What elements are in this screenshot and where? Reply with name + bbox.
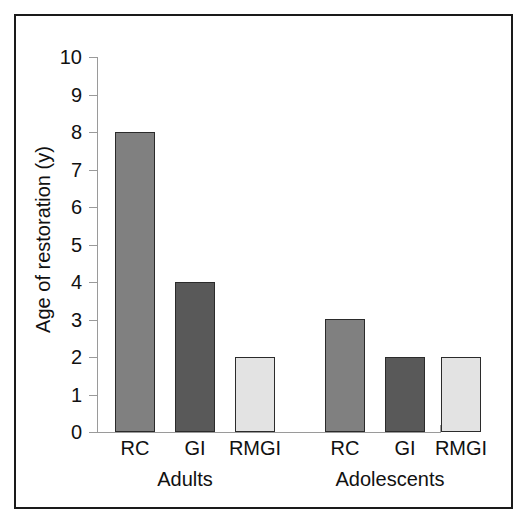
y-axis-tick-mark	[89, 95, 97, 96]
x-axis-line	[97, 432, 441, 433]
x-axis-category-label: RMGI	[426, 437, 496, 460]
y-axis-tick-mark	[89, 282, 97, 283]
y-axis-tick-label-text: 9	[38, 85, 82, 105]
y-axis-tick-mark	[89, 395, 97, 396]
y-axis-tick-mark	[89, 320, 97, 321]
y-axis-tick-label-text: 1	[38, 385, 82, 405]
y-axis-tick-label: 0	[38, 422, 82, 442]
bar-adults-gi	[175, 282, 215, 432]
y-axis-tick-label-text: 0	[38, 422, 82, 442]
y-axis-title: Age of restoration (y)	[32, 120, 55, 360]
x-axis-group-label: Adults	[85, 468, 285, 491]
y-axis-tick-mark	[89, 170, 97, 171]
plot-area: 109876543210 Age of restoration (y) RCGI…	[0, 0, 523, 531]
y-axis-tick-mark	[89, 132, 97, 133]
y-axis-tick-label: 1	[38, 385, 82, 405]
y-axis-tick-label-text: 10	[38, 47, 82, 67]
y-axis-tick-mark	[89, 207, 97, 208]
bar-adults-rmgi	[235, 357, 275, 432]
bar-adolescents-gi	[385, 357, 425, 432]
bar-adults-rc	[115, 132, 155, 432]
bar-adolescents-rmgi	[441, 357, 481, 432]
y-axis-tick-label: 9	[38, 85, 82, 105]
y-axis-tick-mark	[89, 357, 97, 358]
figure: 109876543210 Age of restoration (y) RCGI…	[0, 0, 523, 531]
x-axis-category-label: RMGI	[220, 437, 290, 460]
y-axis-tick-mark	[89, 57, 97, 58]
y-axis-line	[97, 57, 98, 432]
y-axis-tick-mark	[89, 245, 97, 246]
x-axis-group-label: Adolescents	[290, 468, 490, 491]
y-axis-tick-label: 10	[38, 47, 82, 67]
bar-adolescents-rc	[325, 319, 365, 432]
y-axis-tick-mark	[89, 432, 97, 433]
